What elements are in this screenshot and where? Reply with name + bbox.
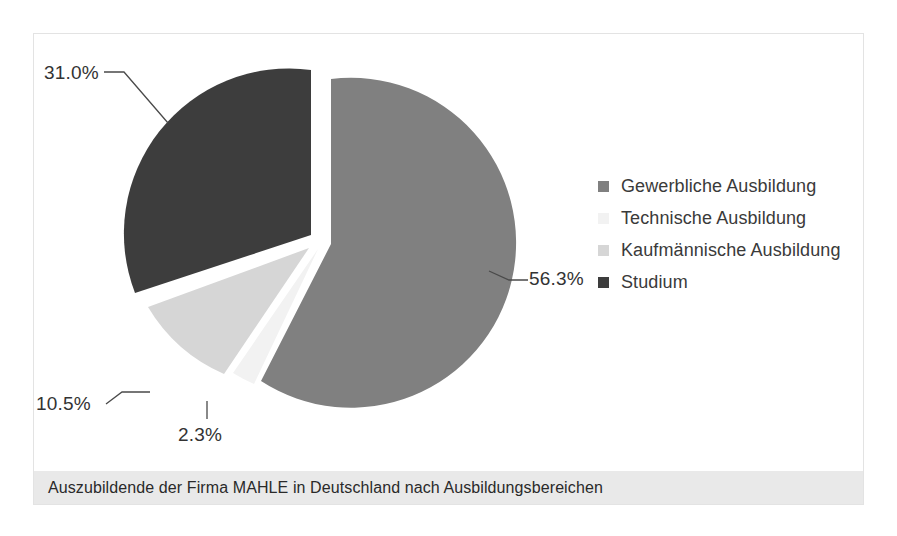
legend-item-technische[interactable]: Technische Ausbildung xyxy=(598,202,848,234)
chart-caption-text: Auszubildende der Firma MAHLE in Deutsch… xyxy=(34,479,603,497)
chart-caption-bar: Auszubildende der Firma MAHLE in Deutsch… xyxy=(34,471,863,504)
legend-item-gewerbliche[interactable]: Gewerbliche Ausbildung xyxy=(598,170,848,202)
legend-label: Technische Ausbildung xyxy=(621,208,806,229)
legend-item-kaufmaennische[interactable]: Kaufmännische Ausbildung xyxy=(598,234,848,266)
legend-label: Studium xyxy=(621,272,688,293)
chart-legend: Gewerbliche Ausbildung Technische Ausbil… xyxy=(598,170,848,298)
legend-label: Gewerbliche Ausbildung xyxy=(621,176,816,197)
legend-item-studium[interactable]: Studium xyxy=(598,266,848,298)
legend-swatch-icon xyxy=(598,181,609,192)
legend-swatch-icon xyxy=(598,245,609,256)
legend-label: Kaufmännische Ausbildung xyxy=(621,240,841,261)
legend-swatch-icon xyxy=(598,213,609,224)
legend-swatch-icon xyxy=(598,277,609,288)
